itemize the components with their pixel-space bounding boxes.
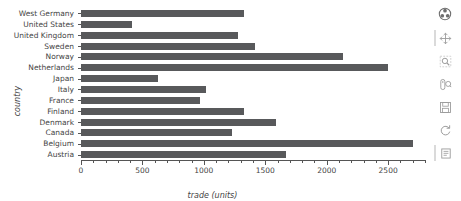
y-axis-tick-label: Austria bbox=[0, 149, 78, 160]
y-axis-tick-label: Denmark bbox=[0, 117, 78, 128]
y-axis-tick-label: Sweden bbox=[0, 41, 78, 52]
y-axis-tick-label: Norway bbox=[0, 51, 78, 62]
bar[interactable] bbox=[81, 75, 158, 82]
x-axis-title: trade (units) bbox=[0, 191, 425, 200]
plot-area[interactable] bbox=[81, 8, 425, 160]
x-axis-minor-tick bbox=[253, 160, 254, 163]
x-axis-major-tick bbox=[265, 160, 266, 165]
x-axis-tick-labels: 05001000150020002500 bbox=[0, 166, 461, 178]
y-axis-tick-label: Japan bbox=[0, 73, 78, 84]
bokeh-plot: country West GermanyUnited StatesUnited … bbox=[0, 0, 461, 201]
x-axis-minor-tick bbox=[400, 160, 401, 163]
x-axis-tick-label: 500 bbox=[135, 166, 149, 175]
bar-row bbox=[81, 62, 425, 73]
plot-toolbar[interactable] bbox=[431, 4, 459, 163]
x-axis-major-tick bbox=[142, 160, 143, 165]
x-axis-minor-tick bbox=[93, 160, 94, 163]
bar[interactable] bbox=[81, 43, 255, 50]
x-axis-tick-label: 1000 bbox=[194, 166, 213, 175]
x-axis-minor-tick bbox=[228, 160, 229, 163]
x-axis-tick-label: 2000 bbox=[317, 166, 336, 175]
bar-row bbox=[81, 51, 425, 62]
bar[interactable] bbox=[81, 53, 343, 60]
bar[interactable] bbox=[81, 64, 388, 71]
x-axis-minor-tick bbox=[241, 160, 242, 163]
y-axis-tick-label: West Germany bbox=[0, 8, 78, 19]
box-zoom-tool-icon[interactable] bbox=[435, 51, 455, 71]
x-axis-minor-tick bbox=[216, 160, 217, 163]
bar-row bbox=[81, 138, 425, 149]
x-axis-minor-tick bbox=[278, 160, 279, 163]
bar-row bbox=[81, 41, 425, 52]
x-axis-minor-tick bbox=[302, 160, 303, 163]
x-axis-minor-tick bbox=[167, 160, 168, 163]
bar[interactable] bbox=[81, 129, 232, 136]
x-axis-major-tick bbox=[327, 160, 328, 165]
bar[interactable] bbox=[81, 151, 286, 158]
x-axis-minor-tick bbox=[376, 160, 377, 163]
y-axis-tick-label: Finland bbox=[0, 106, 78, 117]
x-axis-minor-tick bbox=[290, 160, 291, 163]
bar-row bbox=[81, 127, 425, 138]
bar[interactable] bbox=[81, 108, 244, 115]
y-axis-tick-label: Belgium bbox=[0, 138, 78, 149]
x-axis-minor-tick bbox=[351, 160, 352, 163]
bar[interactable] bbox=[81, 32, 238, 39]
save-tool-icon[interactable] bbox=[435, 97, 455, 117]
bar-row bbox=[81, 106, 425, 117]
x-axis-minor-tick bbox=[339, 160, 340, 163]
bokeh-logo-icon bbox=[435, 4, 455, 24]
y-axis-tick-labels: West GermanyUnited StatesUnited KingdomS… bbox=[0, 8, 78, 160]
bar[interactable] bbox=[81, 10, 244, 17]
y-axis-tick-label: United States bbox=[0, 19, 78, 30]
bar-series bbox=[81, 8, 425, 160]
x-axis-minor-tick bbox=[130, 160, 131, 163]
bar[interactable] bbox=[81, 140, 413, 147]
x-axis-tick-label: 2500 bbox=[379, 166, 398, 175]
y-axis-tick-label: Canada bbox=[0, 127, 78, 138]
bar-row bbox=[81, 30, 425, 41]
x-axis-minor-tick bbox=[413, 160, 414, 163]
x-axis-major-tick bbox=[388, 160, 389, 165]
x-axis-minor-tick bbox=[425, 160, 426, 163]
bar-row bbox=[81, 149, 425, 160]
bar-row bbox=[81, 8, 425, 19]
bar-row bbox=[81, 19, 425, 30]
reset-tool-icon[interactable] bbox=[435, 120, 455, 140]
x-axis-minor-tick bbox=[155, 160, 156, 163]
x-axis-minor-tick bbox=[118, 160, 119, 163]
x-axis-major-tick bbox=[81, 160, 82, 165]
bar[interactable] bbox=[81, 21, 132, 28]
pan-tool-icon[interactable] bbox=[435, 28, 455, 48]
x-axis-minor-tick bbox=[364, 160, 365, 163]
bar-row bbox=[81, 84, 425, 95]
bar-row bbox=[81, 95, 425, 106]
bar[interactable] bbox=[81, 97, 200, 104]
x-axis-minor-tick bbox=[179, 160, 180, 163]
x-axis-major-tick bbox=[204, 160, 205, 165]
bar-row bbox=[81, 73, 425, 84]
help-tool-icon[interactable] bbox=[435, 143, 455, 163]
bar[interactable] bbox=[81, 86, 206, 93]
y-axis-tick-label: United Kingdom bbox=[0, 30, 78, 41]
y-axis-tick-label: Netherlands bbox=[0, 62, 78, 73]
bar[interactable] bbox=[81, 119, 276, 126]
y-axis-tick-label: France bbox=[0, 95, 78, 106]
wheel-zoom-tool-icon[interactable] bbox=[435, 74, 455, 94]
bar-row bbox=[81, 117, 425, 128]
y-axis-tick-label: Italy bbox=[0, 84, 78, 95]
x-axis-minor-tick bbox=[314, 160, 315, 163]
x-axis-tick-label: 0 bbox=[79, 166, 84, 175]
x-axis-minor-tick bbox=[106, 160, 107, 163]
x-axis-tick-label: 1500 bbox=[256, 166, 275, 175]
x-axis-minor-tick bbox=[192, 160, 193, 163]
